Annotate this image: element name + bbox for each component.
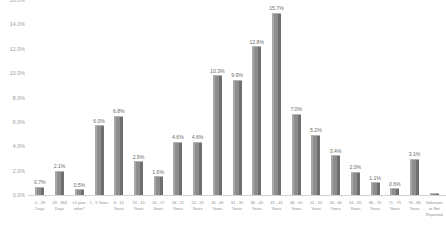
bar[interactable] <box>331 155 340 195</box>
bar[interactable] <box>252 46 261 195</box>
bar-value-label: 1.1% <box>369 175 381 181</box>
bar-value-label: 4.6% <box>192 134 204 140</box>
bar[interactable] <box>233 80 242 195</box>
bar[interactable] <box>410 159 419 195</box>
bar-value-label: 0.7% <box>34 179 46 185</box>
x-axis-tick-label: 16 - 17 Years <box>148 197 168 231</box>
bar[interactable] <box>292 114 301 195</box>
x-axis-tick-label: 61 - 65 Years <box>346 197 366 231</box>
x-axis-tick-label: <1 year, other* <box>69 197 89 231</box>
bar-group[interactable]: 3.4% <box>326 0 346 195</box>
bar[interactable] <box>154 176 163 195</box>
bar-group[interactable]: 5.2% <box>306 0 326 195</box>
x-axis-tick-label: 31 - 35 Years <box>227 197 247 231</box>
x-axis-tick-label: Unknown or Not Reported <box>424 197 444 231</box>
y-axis-tick-label: 14.0% <box>10 21 25 27</box>
bar[interactable] <box>35 187 44 195</box>
x-axis-tick-label: 46 - 50 Years <box>286 197 306 231</box>
x-axis-tick-label: 51 - 55 Years <box>306 197 326 231</box>
bar-value-label: 2.1% <box>54 163 66 169</box>
bar-value-label: 15.7% <box>269 5 283 11</box>
bar[interactable] <box>371 182 380 195</box>
bar-group[interactable]: 4.6% <box>168 0 188 195</box>
bar-value-label: 6.8% <box>113 108 125 114</box>
bar-group[interactable]: 9.9% <box>227 0 247 195</box>
bar-value-label: 12.8% <box>250 39 264 45</box>
x-axis-tick-label: 26 - 30 Years <box>207 197 227 231</box>
y-axis-tick-label: 4.0% <box>13 143 25 149</box>
bar-group[interactable]: 1.6% <box>148 0 168 195</box>
bar-group[interactable]: 3.1% <box>405 0 425 195</box>
bar[interactable] <box>311 135 320 195</box>
bar-group[interactable]: 6.8% <box>109 0 129 195</box>
x-axis-tick-label: 6 - 12 Years <box>109 197 129 231</box>
x-axis-tick-label: 41 - 45 Years <box>267 197 287 231</box>
bar-value-label: 3.4% <box>330 148 342 154</box>
bar-value-label: 9.9% <box>231 72 243 78</box>
x-axis-tick-label: 36 - 40 Years <box>247 197 267 231</box>
x-axis-tick-label: 1 - 5 Years <box>89 197 109 231</box>
bar-group[interactable]: 0.6% <box>385 0 405 195</box>
y-axis-tick-label: 6.0% <box>13 119 25 125</box>
y-axis: 0.0%2.0%4.0%6.0%8.0%10.0%12.0%14.0%16.0% <box>0 0 28 196</box>
bar[interactable] <box>213 75 222 195</box>
bar-value-label: 0.6% <box>389 181 401 187</box>
bar-value-label: 7.0% <box>290 106 302 112</box>
bar-group[interactable]: 2.0% <box>346 0 366 195</box>
x-axis-tick-label: 13 - 15 Years <box>129 197 149 231</box>
bar-value-label: 4.6% <box>172 134 184 140</box>
y-axis-tick-label: 12.0% <box>10 46 25 52</box>
bar-group[interactable]: 15.7% <box>267 0 287 195</box>
bar-value-label: 2.0% <box>350 164 362 170</box>
bar-value-label: 10.3% <box>210 68 224 74</box>
bar-value-label: 2.9% <box>133 154 145 160</box>
y-axis-tick-label: 16.0% <box>10 0 25 3</box>
bar-group[interactable]: 12.8% <box>247 0 267 195</box>
bar-value-label: 3.1% <box>409 151 421 157</box>
bar-group[interactable]: 7.0% <box>286 0 306 195</box>
bar-group[interactable] <box>424 0 444 195</box>
bar[interactable] <box>193 142 202 195</box>
bar-group[interactable]: 4.6% <box>188 0 208 195</box>
bar[interactable] <box>390 188 399 195</box>
bar-value-label: 0.5% <box>73 182 85 188</box>
bar-group[interactable]: 6.0% <box>89 0 109 195</box>
bar[interactable] <box>173 142 182 195</box>
x-axis-tick-label: 76 - 80 Years <box>405 197 425 231</box>
x-axis-tick-label: 22 - 25 Years <box>188 197 208 231</box>
x-axis-tick-label: 56 - 60 Years <box>326 197 346 231</box>
x-axis-line <box>28 195 446 196</box>
bar[interactable] <box>114 116 123 195</box>
x-axis-tick-label: 29 - 364 Days <box>50 197 70 231</box>
x-axis-tick-label: 0 - 28 Days <box>30 197 50 231</box>
bar-group[interactable]: 10.3% <box>207 0 227 195</box>
bar-value-label: 5.2% <box>310 127 322 133</box>
y-axis-tick-label: 8.0% <box>13 95 25 101</box>
x-axis-tick-label: 71 - 75 Years <box>385 197 405 231</box>
y-axis-tick-label: 2.0% <box>13 168 25 174</box>
x-axis-tick-label: 18 - 21 Years <box>168 197 188 231</box>
bar-group[interactable]: 1.1% <box>365 0 385 195</box>
y-axis-tick-label: 10.0% <box>10 70 25 76</box>
bar-chart: 0.0%2.0%4.0%6.0%8.0%10.0%12.0%14.0%16.0%… <box>0 0 446 231</box>
bar-value-label: 6.0% <box>93 118 105 124</box>
y-axis-tick-label: 0.0% <box>13 192 25 198</box>
bar-group[interactable]: 2.1% <box>50 0 70 195</box>
bar[interactable] <box>351 172 360 195</box>
x-axis-tick-label: 66 - 70 Years <box>365 197 385 231</box>
plot-area: 0.7%2.1%0.5%6.0%6.8%2.9%1.6%4.6%4.6%10.3… <box>28 0 446 196</box>
bar-series: 0.7%2.1%0.5%6.0%6.8%2.9%1.6%4.6%4.6%10.3… <box>28 0 446 195</box>
bar[interactable] <box>55 171 64 195</box>
bar-group[interactable]: 0.7% <box>30 0 50 195</box>
bar-group[interactable]: 0.5% <box>69 0 89 195</box>
bar[interactable] <box>134 161 143 195</box>
bar-group[interactable]: 2.9% <box>129 0 149 195</box>
bar[interactable] <box>95 125 104 195</box>
x-axis: 0 - 28 Days29 - 364 Days<1 year, other*1… <box>28 197 446 231</box>
bar[interactable] <box>272 13 281 196</box>
bar-value-label: 1.6% <box>152 169 164 175</box>
